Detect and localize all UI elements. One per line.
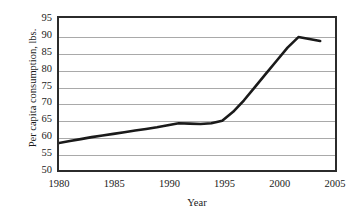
x-tick-label: 2000 <box>258 178 302 190</box>
y-tick-label: 80 <box>20 63 52 74</box>
plot-area <box>57 16 337 172</box>
x-tick-label: 1980 <box>37 178 81 190</box>
y-tick-label: 90 <box>20 29 52 40</box>
series-line-per-capita-consumption <box>59 37 320 143</box>
x-tick-label: 1995 <box>203 178 247 190</box>
y-tick-label: 85 <box>20 46 52 57</box>
y-tick-label: 60 <box>20 130 52 141</box>
chart-figure: Per capita consumption, lbs. 95908580757… <box>0 0 363 220</box>
data-line-layer <box>59 18 335 170</box>
y-tick-label: 95 <box>20 12 52 23</box>
x-tick-label: 1985 <box>92 178 136 190</box>
y-tick-label: 70 <box>20 96 52 107</box>
x-tick-label: 1990 <box>147 178 191 190</box>
y-tick-label: 55 <box>20 147 52 158</box>
x-tick-label: 2005 <box>313 178 357 190</box>
y-tick-label: 50 <box>20 164 52 175</box>
y-tick-label: 75 <box>20 80 52 91</box>
x-axis-title: Year <box>57 197 337 208</box>
y-tick-label: 65 <box>20 113 52 124</box>
